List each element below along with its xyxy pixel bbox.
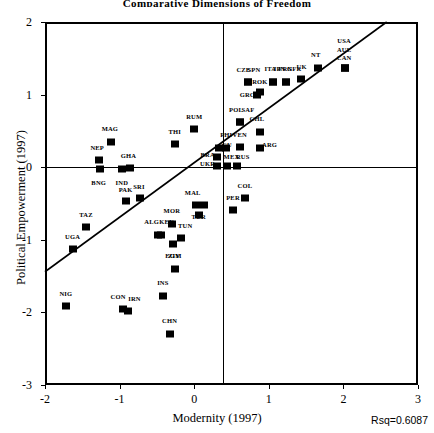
data-point [169,241,177,248]
data-point [124,307,132,314]
data-point [236,143,244,150]
data-point [223,163,231,170]
data-point [341,65,349,72]
y-tick [41,95,45,96]
x-axis-label: Modernity (1997) [0,411,434,426]
data-point [229,207,237,214]
point-label: MAL [185,189,201,196]
x-tick [45,385,46,389]
point-label: ZIM [168,252,182,259]
point-label: MAG [102,125,119,132]
data-point [177,234,185,241]
data-point [233,163,241,170]
point-label: TAZ [79,211,92,218]
point-label: INS [157,279,168,286]
data-point [95,156,103,163]
point-label: GRC [240,91,255,98]
data-point [136,195,144,202]
vertical-reference-line [223,22,224,385]
y-tick [41,22,45,23]
y-axis-label: Political Empowerment (1997) [14,130,29,285]
x-tick [343,385,344,389]
data-point [171,140,179,147]
y-tick-label: -3 [8,378,32,393]
x-tick [418,385,419,389]
x-tick-label: 2 [340,392,346,407]
point-label: THI [169,128,182,135]
point-label: PHI [220,131,232,138]
point-label: GHA [121,152,136,159]
data-point [166,331,174,338]
y-tick-label: 2 [8,15,32,30]
point-label: VEN [233,131,247,138]
point-label: BRA [200,151,214,158]
data-point [118,165,126,172]
x-tick-label: -1 [115,392,125,407]
x-tick-label: 0 [191,392,197,407]
data-point [244,79,252,86]
data-point [269,78,277,85]
data-point [126,164,134,171]
point-label: AUL [337,46,351,53]
point-label: TUN [178,222,192,229]
y-tick [41,312,45,313]
rsq-annotation: Rsq=0.6087 [371,414,428,426]
point-label: SPN [247,66,260,73]
data-point [122,198,130,205]
plot-area-frame [45,22,418,385]
point-label: SAF [241,106,254,113]
point-label: UK [297,63,307,70]
data-point [82,224,90,231]
chart-title: Comparative Dimensions of Freedom [0,0,434,7]
point-label: RUS [236,153,250,160]
point-label: IRN [128,295,141,302]
x-tick [120,385,121,389]
x-tick-label: 3 [415,392,421,407]
point-label: USA [337,37,351,44]
point-label: UKR [200,160,215,167]
point-label: SRI [133,183,144,190]
data-point [107,138,115,145]
point-label: NEP [90,144,104,151]
point-label: TUR [192,213,206,220]
point-label: CAN [337,54,352,61]
data-point [190,126,198,133]
data-point [171,265,179,272]
point-label: CON [111,293,126,300]
point-label: ARG [262,141,277,148]
point-label: RUM [186,113,202,120]
point-label: PAK [119,186,133,193]
x-tick-label: -2 [40,392,50,407]
point-label: CHN [162,317,177,324]
data-point [282,78,290,85]
point-label: MOR [164,207,181,214]
y-tick-label: 1 [8,87,32,102]
y-tick [41,385,45,386]
point-label: PER [226,194,240,201]
data-point [157,232,165,239]
data-point [236,119,244,126]
point-label: CHL [250,115,265,122]
point-label: ROK [252,78,267,85]
data-point [256,89,264,96]
data-point [96,166,104,173]
point-label: CU [222,141,232,148]
data-point [159,293,167,300]
point-label: NT [311,51,320,58]
data-point [297,76,305,83]
data-point [314,65,322,72]
point-label: ALG [144,218,159,225]
point-label: KEN [159,218,174,225]
scatter-plot-figure: Comparative Dimensions of Freedom NIGUGA… [0,0,434,433]
point-label: COL [238,182,253,189]
point-label: UGA [65,233,80,240]
y-tick [41,240,45,241]
point-label: NIG [59,290,72,297]
data-point [200,201,208,208]
data-point [69,246,77,253]
x-tick [194,385,195,389]
data-point [241,195,249,202]
x-tick-label: 1 [266,392,272,407]
point-label: BNG [91,179,106,186]
y-tick-label: -2 [8,305,32,320]
